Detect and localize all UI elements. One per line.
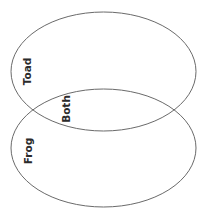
both-label: Both	[60, 95, 72, 123]
toad-label: Toad	[21, 58, 33, 86]
venn-diagram: Toad Frog Both	[0, 0, 214, 212]
frog-ellipse	[11, 89, 196, 207]
frog-label: Frog	[22, 138, 34, 164]
toad-ellipse	[11, 12, 196, 131]
